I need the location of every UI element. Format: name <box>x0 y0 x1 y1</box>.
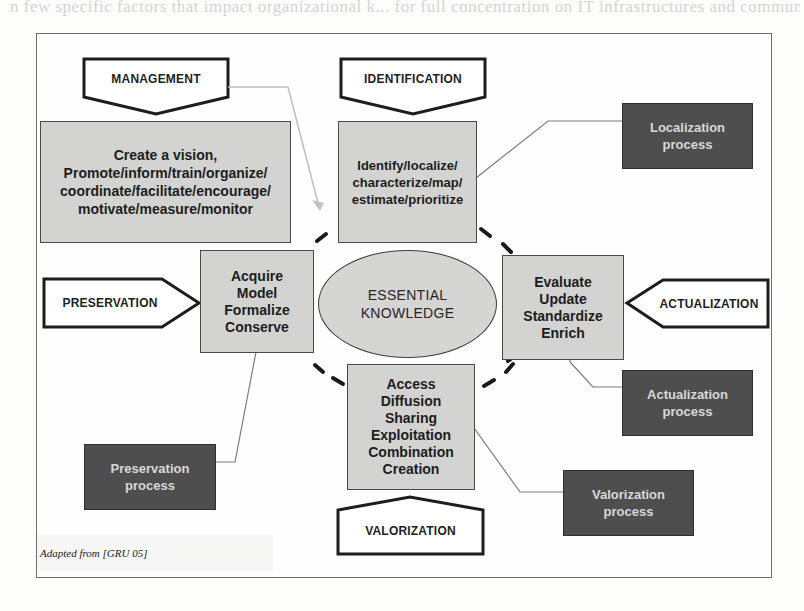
identification-activity-box: Identify/localize/ characterize/map/ est… <box>338 121 477 243</box>
actualization-process-label: Actualization process <box>647 386 728 420</box>
valorization-process-box: Valorization process <box>563 470 694 536</box>
figure-caption: Adapted from [GRU 05] <box>37 535 273 571</box>
valorization-activity-text: Access Diffusion Sharing Exploitation Co… <box>368 376 454 478</box>
localization-process-box: Localization process <box>622 103 753 169</box>
preservation-label: PRESERVATION <box>44 279 176 327</box>
valorization-activity-box: Access Diffusion Sharing Exploitation Co… <box>347 364 475 490</box>
localization-process-label: Localization process <box>650 119 725 153</box>
identification-label: IDENTIFICATION <box>341 59 485 99</box>
essential-knowledge-label: ESSENTIAL KNOWLEDGE <box>361 286 455 322</box>
identification-activity-text: Identify/localize/ characterize/map/ est… <box>352 157 463 208</box>
actualization-label: ACTUALIZATION <box>650 280 768 327</box>
actualization-activity-text: Evaluate Update Standardize Enrich <box>523 274 602 342</box>
actualization-process-box: Actualization process <box>622 370 753 436</box>
management-activity-box: Create a vision, Promote/inform/train/or… <box>40 121 291 243</box>
management-activity-text: Create a vision, Promote/inform/train/or… <box>60 146 271 218</box>
preservation-activity-box: Acquire Model Formalize Conserve <box>200 250 314 353</box>
valorization-process-label: Valorization process <box>592 486 665 520</box>
preservation-process-box: Preservation process <box>84 444 216 510</box>
preservation-process-label: Preservation process <box>111 460 190 494</box>
essential-knowledge-ellipse: ESSENTIAL KNOWLEDGE <box>318 250 497 358</box>
actualization-activity-box: Evaluate Update Standardize Enrich <box>502 255 624 360</box>
caption-text: Adapted from [GRU 05] <box>40 547 147 559</box>
management-label: MANAGEMENT <box>84 59 228 99</box>
preservation-activity-text: Acquire Model Formalize Conserve <box>224 268 289 336</box>
valorization-label: VALORIZATION <box>338 508 483 554</box>
